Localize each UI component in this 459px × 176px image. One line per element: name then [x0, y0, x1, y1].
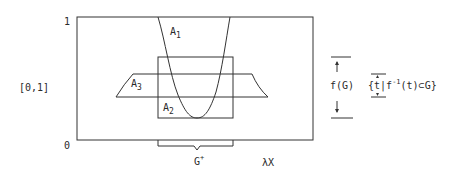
y-axis-bottom-label: 0	[64, 141, 70, 151]
set-t-down-arrow-icon	[376, 93, 379, 96]
a1-label: A1	[170, 27, 181, 38]
g-plus-brace	[158, 140, 233, 150]
g-plus-label: G+	[194, 157, 204, 168]
fg-label: f(G)	[330, 81, 354, 91]
fg-down-arrow-icon	[335, 109, 339, 113]
y-axis-top-label: 1	[64, 17, 70, 27]
y-range-label: [0,1]	[19, 83, 49, 93]
set-notation: {t|f-1(t)⊂G}	[368, 81, 437, 92]
set-t-up-arrow-icon	[376, 75, 379, 78]
a2-label: A2	[163, 103, 174, 114]
a3-label: A3	[131, 79, 142, 90]
x-axis-label: λX	[262, 158, 274, 168]
fg-up-arrow-icon	[335, 61, 339, 65]
outer-box	[77, 17, 313, 140]
